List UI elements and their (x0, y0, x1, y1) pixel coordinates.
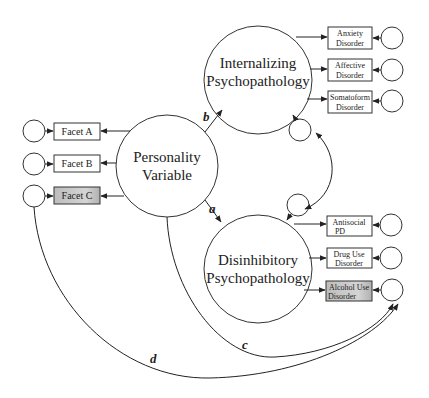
anxiety-label-1: Anxiety (337, 29, 363, 38)
affective-label-1: Affective (335, 61, 366, 70)
internalizing-node: Internalizing Psychopathology (204, 26, 312, 134)
antisocial-label-2: PD (335, 227, 345, 236)
drug-use-error (380, 247, 402, 269)
antisocial-pd: Antisocial PD (294, 214, 402, 236)
anxiety-error (381, 27, 403, 49)
affective-disorder: Affective Disorder (310, 59, 403, 81)
anxiety-disorder: Anxiety Disorder (296, 27, 403, 49)
alcohol-use-label-2: Disorder (328, 292, 356, 301)
antisocial-label-1: Antisocial (333, 218, 367, 227)
drug-use-label-2: Disorder (335, 259, 363, 268)
personality-variable-node: Personality Variable (116, 115, 218, 217)
disinhibitory-node: Disinhibitory Psychopathology (204, 215, 312, 323)
personality-label-2: Variable (142, 167, 192, 183)
disinhibitory-label-1: Disinhibitory (218, 252, 299, 268)
internalizing-label-1: Internalizing (220, 55, 297, 71)
internalizing-disturbance (289, 119, 311, 141)
alcohol-use-disorder: Alcohol Use Disorder (304, 279, 403, 301)
drug-use-label-1: Drug Use (334, 250, 365, 259)
affective-label-2: Disorder (336, 71, 364, 80)
facet-a-label: Facet A (62, 126, 94, 137)
drug-use-disorder: Drug Use Disorder (309, 247, 402, 269)
disinhibitory-disturbance (287, 194, 309, 216)
path-diagram: Personality Variable Internalizing Psych… (0, 0, 429, 398)
disinhibitory-label-2: Psychopathology (206, 270, 310, 286)
path-b-label: b (203, 109, 210, 124)
path-c-label: c (242, 337, 248, 352)
somatoform-disorder: Somatoform Disorder (307, 90, 403, 113)
facet-c-label: Facet C (62, 190, 93, 201)
facet-c: Facet C (23, 185, 124, 207)
disinhibitory-disturbance-arrow (287, 214, 291, 220)
alcohol-use-error (381, 279, 403, 301)
affective-error (381, 59, 403, 81)
facet-c-error (23, 185, 45, 207)
facet-b-label: Facet B (62, 158, 93, 169)
facet-a-error (23, 120, 45, 142)
somatoform-label-1: Somatoform (330, 93, 371, 102)
anxiety-label-2: Disorder (336, 39, 364, 48)
facet-a: Facet A (23, 120, 130, 142)
disturbance-covariance (305, 133, 332, 209)
path-d-label: d (150, 351, 157, 366)
facet-b-error (23, 153, 45, 175)
path-a-label: a (209, 201, 216, 216)
alcohol-use-label-1: Alcohol Use (329, 283, 370, 292)
internalizing-label-2: Psychopathology (206, 73, 310, 89)
somatoform-label-2: Disorder (336, 103, 364, 112)
somatoform-error (381, 90, 403, 112)
antisocial-error (380, 214, 402, 236)
facet-b: Facet B (23, 153, 116, 175)
personality-label-1: Personality (133, 149, 201, 165)
